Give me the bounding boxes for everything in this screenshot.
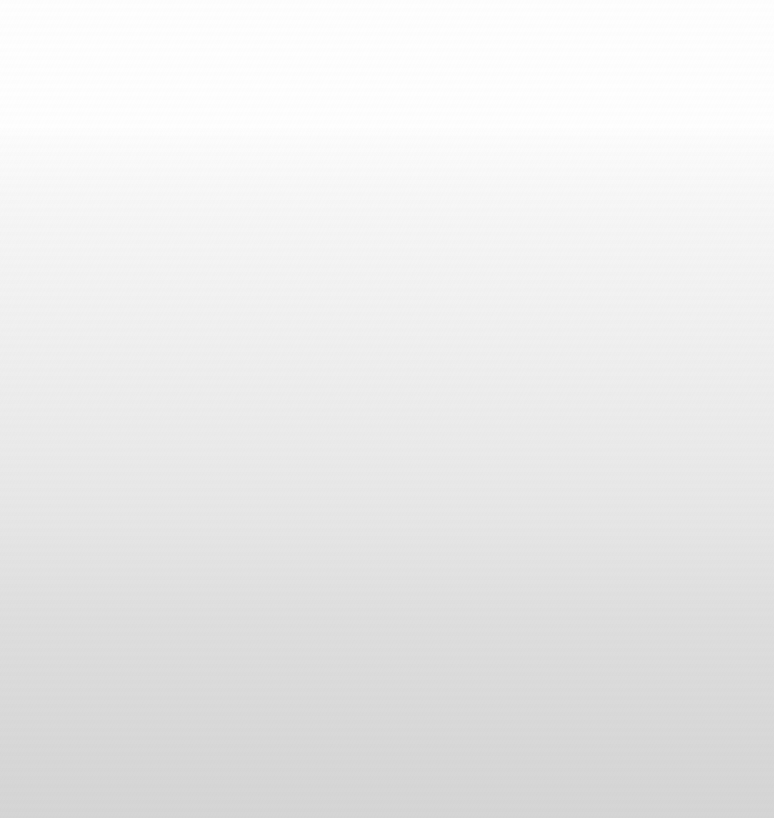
empty-content-region: [0, 0, 774, 818]
app-viewport: [0, 0, 774, 818]
